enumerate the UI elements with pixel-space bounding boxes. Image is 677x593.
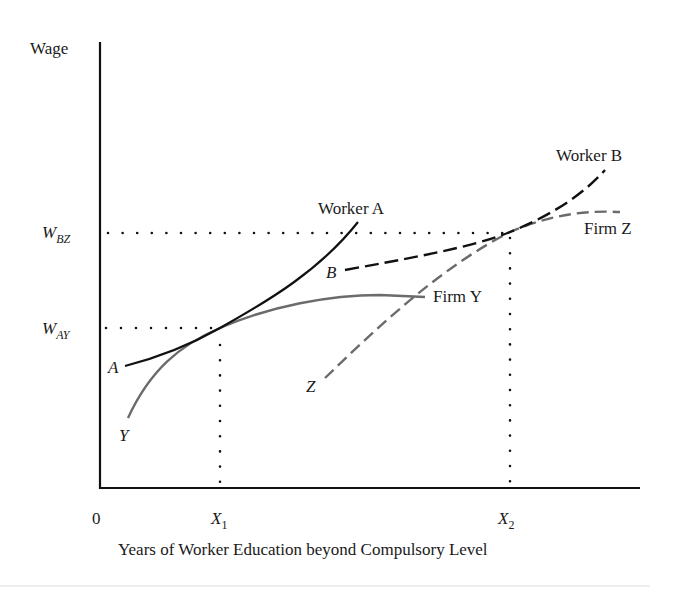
bottom-divider xyxy=(0,585,650,587)
firm-y-label: Firm Y xyxy=(433,288,482,305)
worker-a-start-label: A xyxy=(108,359,118,376)
y-axis-label: Wage xyxy=(30,40,68,57)
firm-z-label: Firm Z xyxy=(584,220,632,237)
worker-b-start-label: B xyxy=(326,264,336,281)
y-tick-way: WAY xyxy=(42,320,70,337)
y-tick-wbz: WBZ xyxy=(42,224,70,241)
hedonic-wage-diagram xyxy=(0,0,677,593)
y-tick-wbz-sub: BZ xyxy=(56,232,70,246)
x-tick-x2-main: X xyxy=(498,509,508,528)
y-tick-way-main: W xyxy=(42,319,56,338)
worker-b-label: Worker B xyxy=(556,147,622,164)
worker-b-curve xyxy=(345,170,605,270)
y-tick-way-sub: AY xyxy=(56,328,69,342)
x-axis-label: Years of Worker Education beyond Compuls… xyxy=(118,541,488,558)
x-tick-x1-sub: 1 xyxy=(221,518,227,532)
worker-a-label: Worker A xyxy=(318,200,384,217)
worker-a-curve xyxy=(125,222,358,366)
firm-y-start-label: Y xyxy=(119,427,128,444)
x-tick-x2: X2 xyxy=(498,510,514,527)
firm-y-curve xyxy=(128,295,425,418)
firm-z-start-label: Z xyxy=(306,378,315,395)
x-tick-x2-sub: 2 xyxy=(508,518,514,532)
y-tick-wbz-main: W xyxy=(42,223,56,242)
x-tick-x1: X1 xyxy=(211,510,227,527)
origin-label: 0 xyxy=(92,510,101,527)
x-tick-x1-main: X xyxy=(211,509,221,528)
